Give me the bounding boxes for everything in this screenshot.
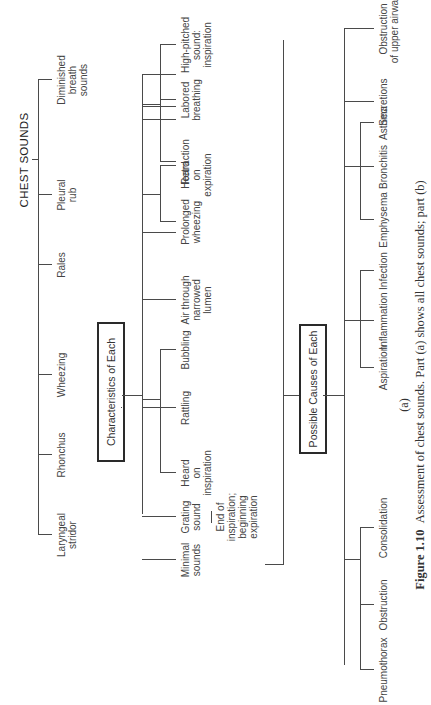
char-heard-on-inspiration: Heard on inspiration [180,450,213,496]
tick [38,79,52,80]
connector [283,395,299,396]
tick [160,472,176,473]
figure-caption: Figure 1.10 Assessment of chest sounds. … [413,180,428,589]
cause-bronchitis: Bronchitis [378,145,389,189]
char-grating-sound: Grating sound [180,501,202,534]
sound-laryngeal-stridor: Laryngeal stridor [56,513,78,557]
cause-consolidation: Consolidation [378,498,389,559]
bracket-sounds [38,79,39,535]
char-minimal-sounds: Minimal sounds [180,543,202,577]
sound-rales: Rales [56,252,67,278]
tick [360,527,374,528]
tick [142,74,176,75]
char-labored-breathing: Labored breathing [180,79,202,121]
tick [360,219,374,220]
tick [160,349,176,350]
char-prolonged-wheezing: Prolonged wheezing [180,199,202,245]
tick [344,166,360,167]
tick [360,320,374,321]
grating-note: End of inspiration; beginning expiration [215,493,259,541]
chest-sounds-diagram: CHEST SOUNDS Diminished breath sounds Pl… [0,0,431,705]
tick [38,194,52,195]
tick [142,516,176,517]
caption-text: Assessment of chest sounds. Part (a) sho… [413,180,427,523]
cause-asthma: Asthma [378,106,389,140]
cause-infection: Infection [378,252,389,290]
tick [160,44,176,45]
bracket-stridor [160,44,161,162]
sound-rhonchus: Rhonchus [56,432,67,477]
characteristics-box: Characteristics of Each [97,322,125,462]
char-rattling: Rattling [180,391,191,425]
tick [160,161,176,162]
bracket-rales [160,349,161,473]
bracket-causes [344,28,345,665]
bracket-wheeze-causes [360,122,361,220]
tick [38,264,52,265]
causes-box: Possible Causes of Each [299,324,327,454]
tick [160,165,176,166]
cause-upper-airway-obstruction: Obstruction of upper airway [378,0,400,63]
tick [38,534,52,535]
tick [360,604,374,605]
tick [142,407,160,408]
figure-number: Figure 1.10 [413,530,427,590]
connector [121,407,122,408]
tick [142,106,176,107]
cause-inflammation: Inflammation [378,292,389,349]
connector [211,511,212,523]
tick [142,559,176,560]
cause-emphysema: Emphysema [378,192,389,248]
tick [360,122,374,123]
tick [142,299,176,300]
tick [344,28,374,29]
cause-pneumothorax: Pneumothorax [378,637,389,702]
tick [142,119,176,120]
char-bubbling: Bubbling [180,331,191,370]
tick [142,104,160,105]
tick [160,407,176,408]
diagram-title: CHEST SOUNDS [18,113,30,208]
tick [142,232,176,233]
bracket-wheezing [160,165,161,222]
connector [122,395,143,396]
tick [344,101,374,102]
char-high-pitched: High-pitched sound: inspiration [180,17,213,73]
bracket-diminished-causes [360,527,361,670]
tick [344,559,360,560]
tick [360,367,374,368]
tick [38,454,52,455]
bracket-characteristics [142,74,143,514]
tick [360,669,374,670]
tick [142,194,160,195]
tick [344,320,360,321]
sound-diminished: Diminished breath sounds [56,55,89,104]
cause-obstruction: Obstruction [378,579,389,630]
tick [360,270,374,271]
sound-wheezing: Wheezing [56,353,67,397]
tick [160,99,176,100]
tick [38,374,52,375]
connector [265,564,283,565]
tick [360,166,374,167]
connector-to-causes [283,40,284,565]
char-air-through-lumen: Air through narrowed lumen [180,276,213,325]
part-label: (a) [397,398,412,411]
tick [160,221,176,222]
tick [142,399,160,400]
connector [323,395,345,396]
sound-pleural-rub: Pleural rub [56,179,78,210]
cause-aspiration: Aspiration [378,346,389,390]
char-heard-on-expiration: Heard on expiration [180,153,213,196]
